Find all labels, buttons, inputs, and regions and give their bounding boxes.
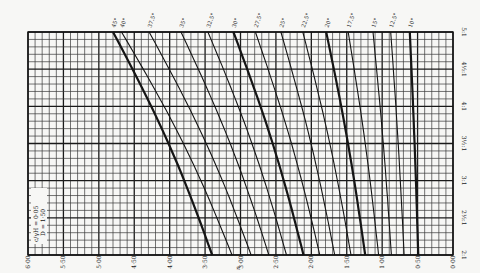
y-tick-label: 2:1 xyxy=(461,250,468,260)
x-tick-label: 0·00 xyxy=(449,255,456,269)
curve-angle-label: 10° xyxy=(407,17,416,28)
x-axis-title: n xyxy=(234,266,241,270)
x-tick-label: 5·00 xyxy=(95,255,102,269)
x-tick-label: 0·50 xyxy=(414,255,421,269)
x-tick-label: 2·50 xyxy=(272,255,279,269)
curve-angle-label: 20° xyxy=(324,17,333,28)
curve-angle-label: 15° xyxy=(370,17,379,28)
curve-angle-label: 35° xyxy=(178,17,187,28)
x-tick-label: 3·50 xyxy=(201,255,208,269)
curve-angle-label: 27.5° xyxy=(253,12,264,28)
x-tick-label: 4·00 xyxy=(166,255,173,269)
curve-angle-label: 32.5° xyxy=(205,12,216,28)
x-tick-label: 1·00 xyxy=(378,255,385,269)
curve-angle-label: 17.5° xyxy=(345,12,356,28)
y-axis-ticks: 2:12½:13:13½:14:14½:15:1 xyxy=(461,27,468,260)
x-tick-label: 1·50 xyxy=(343,255,350,269)
x-tick-label: 4·50 xyxy=(130,255,137,269)
y-tick-label: 4:1 xyxy=(461,102,468,112)
y-tick-label: 4½:1 xyxy=(461,61,468,76)
curve-angle-label: 37.5° xyxy=(146,12,157,28)
nomogram-chart: 6·005·505·004·504·003·503·002·502·001·50… xyxy=(0,0,480,273)
x-tick-label: 2·00 xyxy=(307,255,314,269)
curve-angle-label: 40° xyxy=(119,17,128,28)
curve-angle-label: 25° xyxy=(278,17,287,28)
curve-angle-label: 12.5° xyxy=(388,12,399,28)
y-tick-label: 5:1 xyxy=(461,27,468,37)
legend-box: c/γH = 0·05 D = 1·50 xyxy=(31,188,47,244)
curve-angle-label: 22.5° xyxy=(300,12,311,28)
legend-line-2: D = 1·50 xyxy=(39,209,46,236)
y-tick-label: 2½:1 xyxy=(461,210,468,225)
x-tick-label: 5·50 xyxy=(59,255,66,269)
y-tick-label: 3½:1 xyxy=(461,136,468,151)
x-tick-label: 6·00 xyxy=(24,255,31,269)
curve-angle-label: 30° xyxy=(231,17,240,28)
y-tick-label: 3:1 xyxy=(461,176,468,186)
curve-angle-labels: 45°40°37.5°35°32.5°30°27.5°25°22.5°20°17… xyxy=(110,12,416,28)
